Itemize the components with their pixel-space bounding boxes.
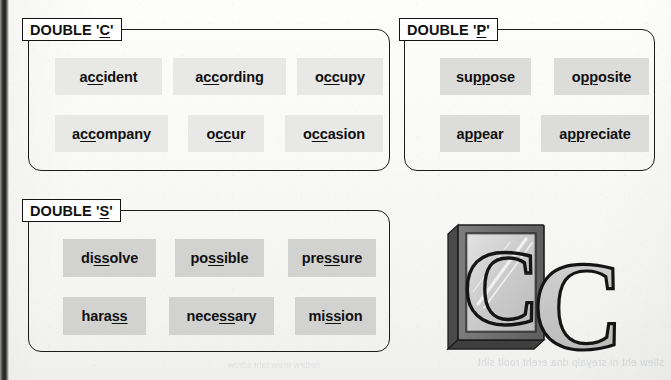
worksheet-page: sllew eht ni sreyalp dna ereht roolf sih… [0, 0, 671, 380]
word-part-after: ear [482, 126, 503, 142]
word-chip[interactable]: according [173, 58, 286, 95]
word-part-after: ion [341, 308, 362, 324]
word-part-after: ording [219, 69, 264, 85]
word-part-before: a [72, 126, 80, 142]
word-double-letters: pp [580, 69, 598, 85]
word-part-after: upy [340, 69, 365, 85]
word-part-after: ose [490, 69, 515, 85]
word-double-letters: cc [203, 69, 219, 85]
word-chip[interactable]: occasion [285, 115, 383, 152]
word-part-before: pre [302, 250, 324, 266]
standing-letter-c: C [532, 235, 624, 362]
word-part-after: ident [103, 69, 137, 85]
panel-title-letter: C [100, 22, 111, 38]
panel-title-suffix: ' [109, 203, 113, 219]
word-double-letters: cc [87, 69, 103, 85]
word-chip[interactable]: possible [175, 239, 264, 277]
word-part-before: po [190, 250, 208, 266]
word-chip[interactable]: occur [188, 115, 264, 152]
panel-title-double-p: DOUBLE 'P' [399, 18, 498, 41]
word-part-after: ible [224, 250, 249, 266]
word-double-letters: cc [80, 126, 96, 142]
word-part-before: hara [81, 308, 111, 324]
panel-title-letter: P [477, 22, 487, 38]
word-part-after: ure [340, 250, 362, 266]
word-chip[interactable]: mission [295, 297, 376, 335]
word-part-after: ary [235, 308, 256, 324]
word-chip[interactable]: harass [63, 297, 146, 335]
word-double-letters: cc [312, 126, 328, 142]
word-part-after: osite [598, 69, 631, 85]
word-part-before: o [315, 69, 324, 85]
mirror-with-letter-c-illustration: C C [440, 212, 655, 362]
word-part-after: asion [328, 126, 365, 142]
panel-title-suffix: ' [486, 22, 490, 38]
word-part-after: ur [231, 126, 245, 142]
panel-title-prefix: DOUBLE ' [30, 22, 100, 38]
word-part-before: di [81, 250, 94, 266]
word-chip[interactable]: pressure [288, 239, 376, 277]
word-chip[interactable]: suppose [440, 58, 531, 95]
word-part-after: ompany [96, 126, 151, 142]
word-chip[interactable]: appear [440, 115, 520, 152]
page-binding-edge [0, 0, 9, 380]
word-chip[interactable]: opposite [554, 58, 649, 95]
word-chip[interactable]: accompany [55, 115, 168, 152]
word-chip[interactable]: dissolve [63, 239, 156, 277]
word-double-letters: ss [94, 250, 110, 266]
word-chip[interactable]: accident [55, 58, 162, 95]
word-double-letters: ss [219, 308, 235, 324]
panel-title-prefix: DOUBLE ' [30, 203, 100, 219]
word-double-letters: cc [324, 69, 340, 85]
panel-title-prefix: DOUBLE ' [407, 22, 477, 38]
word-chip[interactable]: appreciate [541, 115, 649, 152]
word-part-before: nece [186, 308, 219, 324]
word-double-letters: ss [208, 250, 224, 266]
word-double-letters: cc [215, 126, 231, 142]
bleed-through-text-line2: nettirw erew taht sdrow [120, 360, 320, 374]
svg-text:C: C [462, 228, 540, 347]
word-double-letters: ss [112, 308, 128, 324]
word-double-letters: ss [324, 250, 340, 266]
mirror-letter-c: C [462, 228, 540, 347]
word-double-letters: pp [464, 126, 482, 142]
word-part-before: o [303, 126, 312, 142]
word-part-before: o [206, 126, 215, 142]
panel-title-double-c: DOUBLE 'C' [22, 18, 122, 41]
panel-title-letter: S [100, 203, 110, 219]
word-double-letters: pp [473, 69, 491, 85]
word-part-before: su [456, 69, 473, 85]
word-double-letters: ss [325, 308, 341, 324]
word-chip[interactable]: occupy [297, 58, 383, 95]
word-double-letters: pp [567, 126, 585, 142]
word-chip[interactable]: necessary [169, 297, 274, 335]
word-part-before: mi [308, 308, 325, 324]
mirror-frame-side [448, 225, 458, 349]
word-part-after: reciate [585, 126, 631, 142]
panel-title-double-s: DOUBLE 'S' [22, 199, 121, 222]
panel-title-suffix: ' [110, 22, 114, 38]
word-part-before: a [559, 126, 567, 142]
word-part-after: olve [110, 250, 139, 266]
